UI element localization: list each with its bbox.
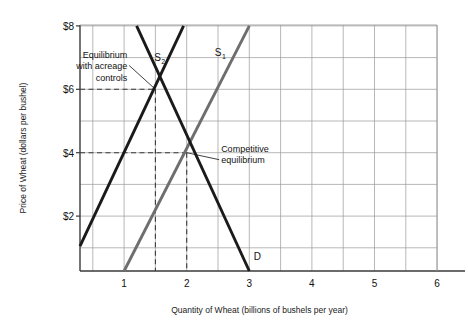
chart-canvas: 123456$2$4$6$8 S1S2D Equilibriumwith acr… [0,0,468,327]
x-tick-label-1: 1 [121,278,127,289]
x-tick-label-4: 4 [309,278,315,289]
curve-label-D: D [254,251,261,262]
x-axis-title: Quantity of Wheat (billions of bushels p… [171,305,348,315]
y-tick-label-dollar-6: $6 [63,84,75,95]
annotation-text-line: with acreage [75,61,127,71]
annotation-text-line: equilibrium [221,155,265,165]
y-tick-label-dollar-4: $4 [63,148,75,159]
x-tick-label-6: 6 [434,278,440,289]
x-tick-label-2: 2 [184,278,190,289]
annotation-text-line: Competitive [221,144,269,154]
annotation-text-line: controls [96,73,128,83]
y-tick-label-dollar-2: $2 [63,211,75,222]
x-tick-label-5: 5 [372,278,378,289]
annotation-text-line: Equilibrium [83,50,128,60]
curve-label-sub-S1: 1 [222,53,226,60]
y-axis-title: Price of Wheat (dollars per bushel) [18,82,28,213]
y-tick-label-dollar-8: $8 [63,21,75,32]
x-tick-label-3: 3 [247,278,253,289]
curve-label-sub-S2: 2 [161,58,165,65]
supply-demand-chart: 123456$2$4$6$8 S1S2D Equilibriumwith acr… [0,0,468,327]
